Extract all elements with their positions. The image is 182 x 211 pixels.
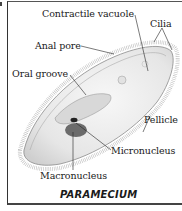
diagram-title: PARAMECIUM bbox=[60, 189, 138, 200]
label-cilia: Cilia bbox=[150, 19, 172, 29]
label-micronucleus: Micronucleus bbox=[111, 146, 175, 156]
label-macronucleus: Macronucleus bbox=[40, 171, 107, 181]
label-oral-groove: Oral groove bbox=[12, 69, 68, 79]
label-anal-pore: Anal pore bbox=[35, 41, 81, 51]
micronucleus-shape bbox=[71, 118, 78, 122]
contractile-vacuole-shape bbox=[118, 76, 126, 84]
label-pellicle: Pellicle bbox=[144, 115, 178, 125]
label-contractile-vacuole: Contractile vacuole bbox=[42, 9, 134, 19]
macronucleus-shape bbox=[65, 123, 87, 137]
